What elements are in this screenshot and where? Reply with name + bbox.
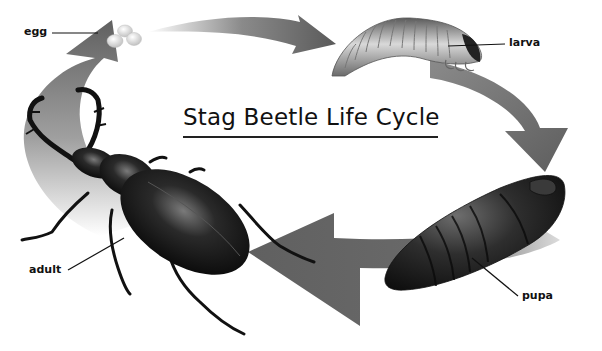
label-egg: egg bbox=[24, 25, 47, 38]
larva-icon bbox=[332, 18, 505, 76]
life-cycle-diagram: Stag Beetle Life Cycle egg larva pupa ad… bbox=[0, 0, 602, 351]
title-underline bbox=[183, 136, 438, 138]
arrow-egg-to-larva bbox=[148, 15, 336, 54]
label-adult: adult bbox=[29, 263, 61, 276]
label-pupa: pupa bbox=[522, 289, 553, 302]
pupa-icon bbox=[385, 175, 565, 296]
diagram-title: Stag Beetle Life Cycle bbox=[183, 104, 440, 130]
label-larva: larva bbox=[509, 36, 540, 49]
arrow-larva-to-pupa bbox=[430, 60, 568, 172]
